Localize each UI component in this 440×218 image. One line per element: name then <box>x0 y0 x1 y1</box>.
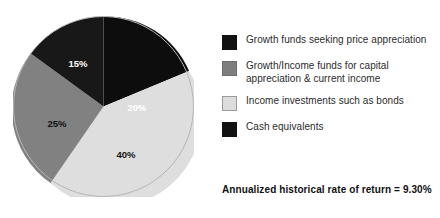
annualized-return-note: Annualized historical rate of return = 9… <box>222 184 432 195</box>
pie-chart-svg: 20% 40% 25% 15% <box>13 16 194 197</box>
legend-item-income-investments[interactable]: Income investments such as bonds <box>222 95 436 111</box>
legend-label-line1: Income investments such as bonds <box>246 95 404 106</box>
pie-slice-label-20: 20% <box>127 102 147 113</box>
legend-label: Cash equivalents <box>246 121 324 134</box>
legend-item-cash-equivalents[interactable]: Cash equivalents <box>222 121 436 137</box>
legend-label: Income investments such as bonds <box>246 95 404 108</box>
legend-label: Growth/Income funds for capital apprecia… <box>246 60 389 85</box>
pie-slice-label-25: 25% <box>47 118 67 129</box>
legend-label-line2: appreciation & current income <box>246 73 389 86</box>
chart-legend: Growth funds seeking price appreciation … <box>222 34 436 147</box>
allocation-pie-chart-figure: 20% 40% 25% 15% Growth funds seeking pri… <box>0 0 440 218</box>
legend-swatch-icon <box>222 122 237 137</box>
pie-chart: 20% 40% 25% 15% <box>13 16 194 197</box>
legend-label-line1: Growth/Income funds for capital <box>246 60 389 71</box>
pie-slice-label-15: 15% <box>68 58 88 69</box>
legend-item-growth-funds[interactable]: Growth funds seeking price appreciation <box>222 34 436 50</box>
legend-label-line1: Cash equivalents <box>246 121 324 132</box>
legend-swatch-icon <box>222 61 237 76</box>
legend-label-line1: Growth funds seeking price appreciation <box>246 34 426 45</box>
legend-swatch-icon <box>222 96 237 111</box>
legend-item-growth-income-funds[interactable]: Growth/Income funds for capital apprecia… <box>222 60 436 85</box>
legend-swatch-icon <box>222 35 237 50</box>
pie-slice-label-40: 40% <box>116 149 136 160</box>
legend-label: Growth funds seeking price appreciation <box>246 34 426 47</box>
